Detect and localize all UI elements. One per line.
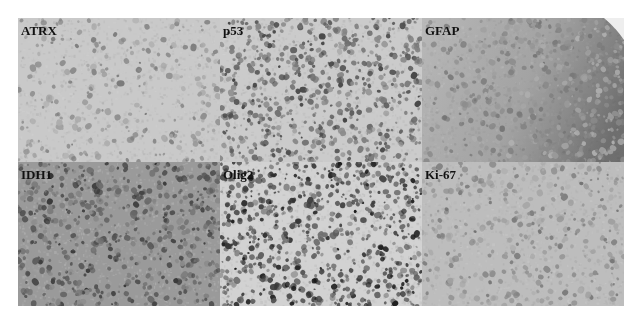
micrograph-p53 bbox=[220, 18, 422, 162]
panel-atrx: ATRX bbox=[18, 18, 220, 162]
panel-label-gfap: GFAP bbox=[425, 23, 459, 39]
panel-p53: p53 bbox=[220, 18, 422, 162]
micrograph-olig2 bbox=[220, 162, 422, 306]
panel-olig2: Olig2 bbox=[220, 162, 422, 306]
panel-label-idh1: IDH1 bbox=[21, 167, 52, 183]
ihc-figure-grid: ATRX p53 GFAP IDH1 Olig2 Ki-67 bbox=[18, 18, 624, 306]
panel-label-ki67: Ki-67 bbox=[425, 167, 456, 183]
panel-label-olig2: Olig2 bbox=[223, 167, 253, 183]
micrograph-atrx bbox=[18, 18, 220, 162]
micrograph-gfap bbox=[422, 18, 624, 162]
panel-label-p53: p53 bbox=[223, 23, 243, 39]
panel-ki67: Ki-67 bbox=[422, 162, 624, 306]
panel-label-atrx: ATRX bbox=[21, 23, 57, 39]
micrograph-ki67 bbox=[422, 162, 624, 306]
micrograph-idh1 bbox=[18, 162, 220, 306]
panel-idh1: IDH1 bbox=[18, 162, 220, 306]
panel-gfap: GFAP bbox=[422, 18, 624, 162]
